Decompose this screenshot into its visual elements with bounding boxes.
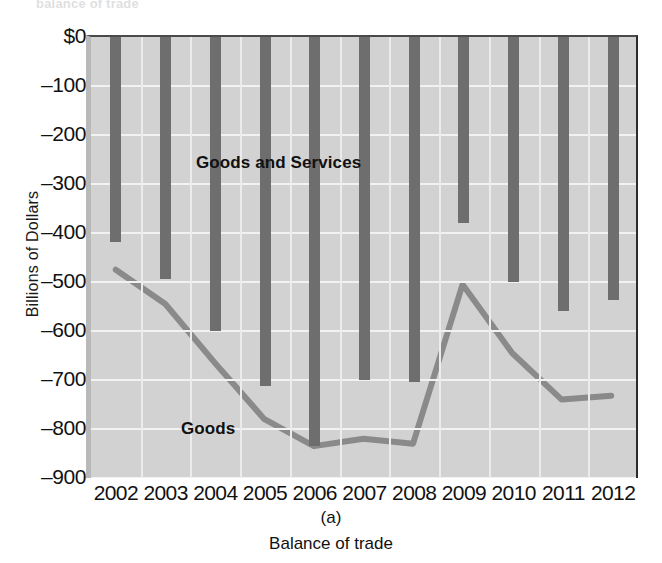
- y-tick-label: –900: [2, 465, 86, 489]
- bar: [260, 37, 271, 386]
- series-label-goods: Goods: [181, 419, 235, 439]
- x-tick-label: 2010: [492, 481, 536, 505]
- x-tick-label: 2011: [542, 481, 585, 505]
- bar: [409, 37, 420, 382]
- y-tick-label: –800: [2, 416, 86, 440]
- bar: [508, 37, 519, 282]
- vertical-gridline: [290, 37, 292, 478]
- vertical-gridline: [340, 37, 342, 478]
- x-tick-label: 2004: [193, 481, 237, 505]
- figure-root: balance of trade Billions of Dollars $0–…: [0, 0, 662, 563]
- caption-title: Balance of trade: [0, 534, 662, 554]
- x-tick-label: 2007: [342, 481, 386, 505]
- x-axis-tick-labels: 2002200320042005200620072008200920102011…: [86, 481, 638, 509]
- x-tick-label: 2012: [591, 481, 635, 505]
- vertical-gridline: [240, 37, 242, 478]
- bar: [160, 37, 171, 279]
- plot-inner: Goods and ServicesGoods: [91, 37, 636, 478]
- y-tick-label: –700: [2, 367, 86, 391]
- x-tick-label: 2006: [293, 481, 337, 505]
- y-tick-label: –600: [2, 318, 86, 342]
- vertical-gridline: [539, 37, 541, 478]
- horizontal-gridline: [91, 428, 636, 430]
- x-tick-label: 2005: [243, 481, 287, 505]
- bar: [608, 37, 619, 300]
- vertical-gridline: [489, 37, 491, 478]
- x-tick-label: 2009: [442, 481, 486, 505]
- y-axis-tick-labels: $0–100–200–300–400–500–600–700–800–900: [0, 35, 86, 478]
- series-label-goods-and-services: Goods and Services: [196, 153, 361, 173]
- x-tick-label: 2003: [143, 481, 187, 505]
- y-tick-label: –500: [2, 269, 86, 293]
- bar: [309, 37, 320, 446]
- y-tick-label: –300: [2, 171, 86, 195]
- vertical-gridline: [439, 37, 441, 478]
- caption-index: (a): [0, 508, 662, 528]
- bar: [210, 37, 221, 331]
- bar: [359, 37, 370, 380]
- vertical-gridline: [389, 37, 391, 478]
- y-tick-label: –100: [2, 73, 86, 97]
- vertical-gridline: [141, 37, 143, 478]
- horizontal-gridline: [91, 477, 636, 478]
- x-tick-label: 2008: [392, 481, 436, 505]
- x-tick-label: 2002: [94, 481, 138, 505]
- bar: [558, 37, 569, 311]
- vertical-gridline: [588, 37, 590, 478]
- bar: [458, 37, 469, 223]
- vertical-gridline: [190, 37, 192, 478]
- bar: [110, 37, 121, 242]
- cut-off-header-text: balance of trade: [36, 0, 276, 8]
- y-tick-label: –400: [2, 220, 86, 244]
- plot-area: Goods and ServicesGoods: [86, 35, 638, 478]
- y-tick-label: –200: [2, 122, 86, 146]
- y-tick-label: $0: [2, 24, 86, 48]
